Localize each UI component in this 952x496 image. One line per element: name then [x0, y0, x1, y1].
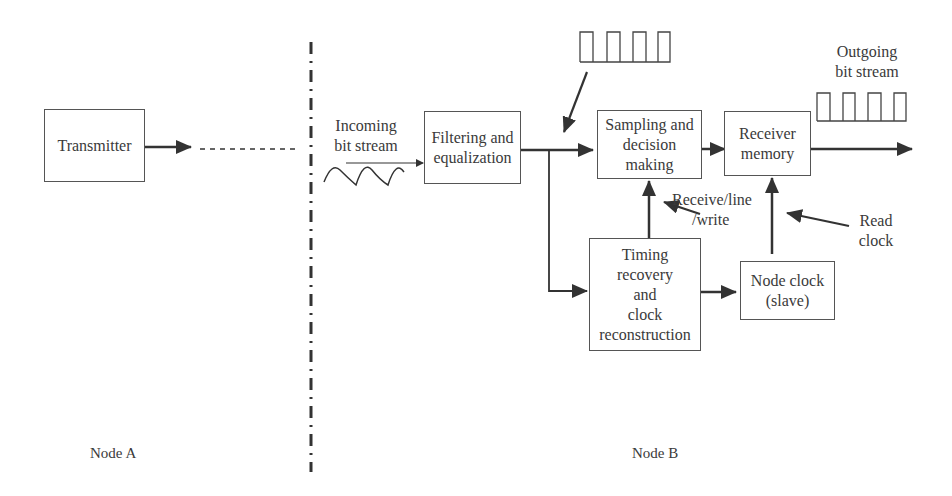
- receive-line-write-line2: /write: [672, 210, 752, 230]
- receiver-memory-label-line1: Receiver: [739, 124, 796, 144]
- node-a-label: Node A: [90, 445, 136, 462]
- outgoing-bit-stream-label: Outgoing bit stream: [822, 42, 912, 82]
- outgoing-label-line2: bit stream: [822, 62, 912, 82]
- sampling-label-line3: making: [605, 155, 693, 175]
- node-clock-block: Node clock (slave): [740, 261, 835, 320]
- transmitter-block: Transmitter: [44, 109, 145, 182]
- incoming-bit-stream-label: Incoming bit stream: [326, 116, 406, 156]
- timing-recovery-block: Timing recovery and clock reconstruction: [589, 238, 701, 351]
- outgoing-label-line1: Outgoing: [822, 42, 912, 62]
- filtering-block: Filtering and equalization: [424, 111, 521, 184]
- incoming-label-line1: Incoming: [326, 116, 406, 136]
- filtering-label-line1: Filtering and: [431, 128, 513, 148]
- outgoing-pulse-train-icon: [817, 93, 906, 121]
- receive-line-write-line1: Receive/line: [672, 190, 752, 210]
- sine-wave-icon: [324, 167, 404, 185]
- read-clock-line1: Read: [856, 211, 896, 231]
- incoming-label-line2: bit stream: [326, 136, 406, 156]
- branch-to-timing-line: [549, 150, 585, 291]
- timing-label-line3: and: [599, 285, 691, 305]
- sampling-label-line2: decision: [605, 135, 693, 155]
- transmitter-label: Transmitter: [57, 136, 131, 156]
- receive-line-write-label: Receive/line /write: [672, 190, 752, 230]
- diagram-canvas: [0, 0, 952, 496]
- node-clock-label-line1: Node clock: [751, 271, 824, 291]
- receiver-memory-block: Receiver memory: [724, 111, 811, 176]
- timing-label-line2: recovery: [599, 265, 691, 285]
- timing-label-line1: Timing: [599, 245, 691, 265]
- read-clock-label: Read clock: [856, 211, 896, 251]
- node-b-label: Node B: [632, 445, 678, 462]
- sampling-clock-arrow: [564, 72, 587, 132]
- read-clock-line2: clock: [856, 231, 896, 251]
- node-clock-label-line2: (slave): [751, 291, 824, 311]
- filtering-label-line2: equalization: [431, 148, 513, 168]
- timing-label-line5: reconstruction: [599, 325, 691, 345]
- read-clock-arrow: [787, 213, 849, 226]
- sampling-label-line1: Sampling and: [605, 115, 693, 135]
- timing-label-line4: clock: [599, 305, 691, 325]
- receiver-memory-label-line2: memory: [739, 144, 796, 164]
- sampling-block: Sampling and decision making: [597, 110, 702, 179]
- sampling-pulse-train-icon: [580, 32, 670, 62]
